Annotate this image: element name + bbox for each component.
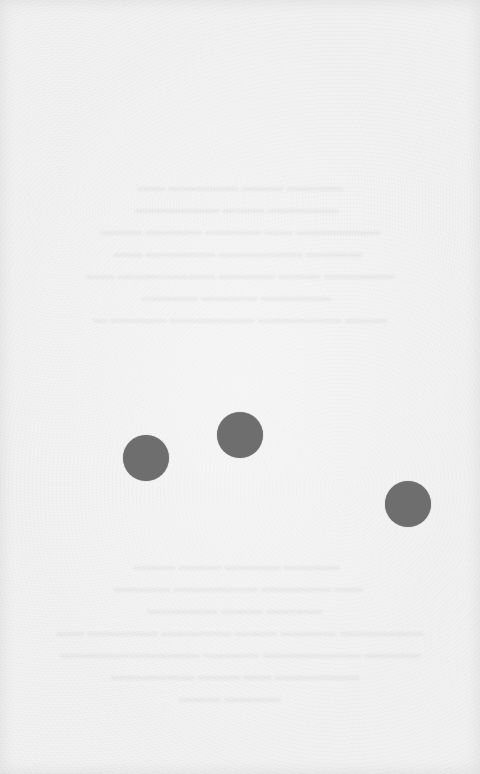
scanned-page: ▬▬▬▬ ▬▬▬ ▬▬▬▬▬ ▬▬ ▬▬▬▬▬ ▬▬▬ ▬▬▬▬▬▬ ▬▬▬▬▬… — [0, 0, 480, 774]
bleed-through-text-top: ▬▬▬▬ ▬▬▬ ▬▬▬▬▬ ▬▬ ▬▬▬▬▬ ▬▬▬ ▬▬▬▬▬▬ ▬▬▬▬▬… — [0, 176, 480, 330]
dot-marker — [123, 435, 169, 481]
bleed-through-text-bottom: ▬▬▬▬ ▬▬▬▬ ▬▬▬ ▬▬▬ ▬▬ ▬▬▬▬▬ ▬▬▬▬▬▬ ▬▬▬▬ ▬… — [0, 555, 480, 709]
dot-marker — [217, 412, 263, 458]
dot-marker — [385, 481, 431, 527]
